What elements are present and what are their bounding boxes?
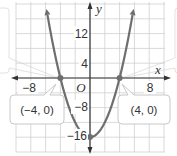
x-tick-8: 8 (147, 81, 154, 95)
point-neg4-0 (57, 75, 63, 81)
x-tick-neg8: −8 (22, 81, 36, 95)
x-axis-label: x (154, 62, 161, 77)
y-tick-neg8: −8 (74, 100, 88, 114)
y-axis-label: y (94, 1, 102, 16)
y-axis-up-arrow-icon (88, 2, 93, 9)
x-axis-right-arrow-icon (164, 76, 171, 81)
y-tick-neg16: −16 (67, 129, 88, 143)
y-tick-12: 12 (75, 27, 89, 41)
y-axis-down-arrow-icon (88, 147, 93, 154)
x-axis (11, 76, 171, 81)
coordinate-plane: 12 4 −8 −16 −8 8 O y x (−4, 0) (4, 0) (0, 0, 177, 156)
callout-left-label: (−4, 0) (20, 104, 54, 116)
callout-right-label: (4, 0) (131, 104, 158, 116)
x-axis-left-arrow-icon (11, 76, 18, 81)
point-4-0 (117, 75, 123, 81)
y-tick-4: 4 (81, 57, 88, 71)
origin-label: O (76, 80, 86, 95)
